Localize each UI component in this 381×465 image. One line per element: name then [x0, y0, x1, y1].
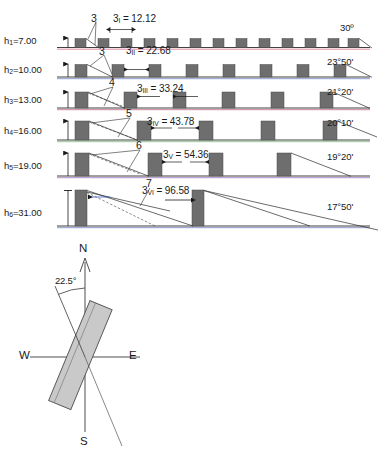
sun-angle-row-5: 19°20' — [327, 152, 353, 162]
spacing-label-row-1: 3I = 12.12 — [113, 14, 156, 25]
compass-east-label: E — [129, 350, 137, 362]
diagram-canvas — [0, 0, 381, 465]
building-row-3 — [75, 92, 333, 108]
sun-angle-row-1: 30º — [340, 23, 354, 33]
compass-angle-label: 22.5° — [55, 276, 76, 286]
shadow-spacing-diagram: h1=7.00 h2=10.00 h3=13.00 h4=16.00 h5=19… — [0, 0, 381, 465]
spacing-label-row-4: 3IV = 43.78 — [147, 117, 194, 128]
sun-angle-row-6: 17°50' — [327, 202, 353, 212]
compass-plan — [30, 258, 140, 446]
building-row-4 — [75, 121, 337, 140]
spacing-label-row-2: 3II = 22.68 — [126, 46, 171, 57]
compass-north-label: N — [79, 243, 87, 255]
sun-angle-row-4: 20°10' — [327, 118, 353, 128]
height-label-row-3: h3=13.00 — [4, 95, 42, 106]
building-row-1 — [75, 39, 359, 48]
height-label-row-2: h2=10.00 — [4, 65, 42, 76]
sun-angle-row-2: 23°50' — [327, 57, 353, 67]
section-row-5 — [57, 150, 370, 178]
callout-row-2: 3 — [99, 46, 105, 57]
section-row-3 — [57, 87, 370, 110]
compass-west-label: W — [19, 350, 30, 362]
building-row-2 — [75, 65, 346, 78]
section-row-2 — [57, 55, 372, 79]
callout-row-3: 4 — [109, 77, 115, 88]
height-label-row-4: h4=16.00 — [4, 126, 42, 137]
callout-row-6: 7 — [146, 178, 152, 189]
spacing-label-row-3: 3III = 33.24 — [137, 84, 183, 95]
height-label-row-6: h6=31.00 — [4, 208, 42, 219]
building-slab — [49, 301, 113, 410]
compass-south-label: S — [80, 436, 88, 448]
callout-row-1: 3 — [91, 13, 97, 24]
height-label-row-1: h1=7.00 — [4, 36, 36, 47]
callout-row-5: 6 — [136, 140, 142, 151]
spacing-label-row-5: 3V = 54.36 — [163, 150, 209, 161]
height-label-row-5: h5=19.00 — [4, 161, 42, 172]
callout-row-4: 5 — [126, 108, 132, 119]
sun-angle-row-3: 21°20' — [327, 87, 353, 97]
